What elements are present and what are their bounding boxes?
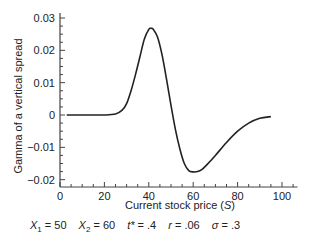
x-axis-label: Current stock price (S) xyxy=(60,199,300,211)
axis-ticks xyxy=(60,18,293,187)
y-tick-label: −0.02 xyxy=(27,174,55,186)
parameter-line: X1 = 50X2 = 60t* = .4r = .06σ = .3 xyxy=(30,219,313,234)
y-tick-label: 0.01 xyxy=(34,77,55,89)
y-tick-label: −0.01 xyxy=(27,141,55,153)
x-axis-label-text: Current stock price ( xyxy=(125,199,224,211)
y-tick-label: 0.02 xyxy=(34,44,55,56)
axes xyxy=(60,13,298,187)
parameter-2: t* = .4 xyxy=(127,219,156,231)
y-axis-label: Gamma of a vertical spread xyxy=(12,26,24,186)
parameter-4: σ = .3 xyxy=(212,219,240,231)
y-tick-label: 0.03 xyxy=(34,12,55,24)
gamma-curve xyxy=(67,28,271,172)
parameter-3: r = .06 xyxy=(168,219,200,231)
parameter-0: X1 = 50 xyxy=(30,219,67,234)
y-tick-label: 0 xyxy=(49,109,55,121)
x-axis-label-close: ) xyxy=(231,199,235,211)
parameter-1: X2 = 60 xyxy=(79,219,116,234)
